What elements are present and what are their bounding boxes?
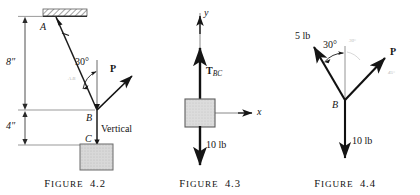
faint-angle-arc xyxy=(347,52,360,60)
tension-subscript: BC xyxy=(213,69,222,78)
figure-4-4: 5 lb 30° 30° 45° P B 10 lb FIGURE 4.4 xyxy=(270,0,420,195)
force-p-arrow xyxy=(97,76,132,110)
figure-4-3: y x TBC 10 lb FIGURE 4.3 xyxy=(150,0,270,195)
free-body-block xyxy=(185,99,215,127)
figure-4-3-caption: FIGURE 4.3 xyxy=(150,178,270,189)
caption-word: IGURE xyxy=(321,179,354,189)
label-point-c: C xyxy=(85,134,92,144)
label-vertical: Vertical xyxy=(101,124,132,134)
label-angle-30: 30° xyxy=(323,40,337,50)
caption-word: IGURE xyxy=(51,179,84,189)
label-faint-angle-artifact: 30° xyxy=(349,38,356,43)
label-point-b: B xyxy=(332,100,338,110)
label-dim-8in: 8″ xyxy=(6,57,15,67)
figure-4-2: A 30° A.B P B Vertical C 8″ 4″ FIGURE 4.… xyxy=(0,0,150,195)
label-axis-y: y xyxy=(204,8,208,18)
label-point-b: B xyxy=(86,113,92,123)
label-force-p: P xyxy=(390,47,396,57)
figure-4-4-drawing xyxy=(270,0,420,175)
caption-prefix-f: F xyxy=(44,178,51,189)
label-angle-30: 30° xyxy=(75,57,89,67)
ceiling-support-hatch xyxy=(43,9,87,16)
hanging-block xyxy=(80,144,113,170)
label-force-p: P xyxy=(110,64,116,74)
figure-4-4-caption: FIGURE 4.4 xyxy=(270,178,420,189)
figure-4-2-drawing xyxy=(0,0,150,175)
caption-number: 4.3 xyxy=(225,178,241,189)
label-point-a: A xyxy=(40,22,46,32)
figure-4-2-caption: FIGURE 4.2 xyxy=(0,178,150,189)
angle-arc-30 xyxy=(83,72,96,90)
label-weight-10lb: 10 lb xyxy=(352,136,372,146)
label-tension-tbc: TBC xyxy=(206,66,222,77)
caption-word: IGURE xyxy=(186,179,219,189)
label-axis-x: x xyxy=(257,107,261,117)
tension-symbol: T xyxy=(206,65,213,76)
caption-number: 4.2 xyxy=(90,178,106,189)
label-faint-angle-artifact-right: 45° xyxy=(388,70,395,75)
label-weight-10lb: 10 lb xyxy=(206,140,226,150)
caption-number: 4.4 xyxy=(360,178,376,189)
caption-prefix-f: F xyxy=(179,178,186,189)
cable-ab-arrowhead xyxy=(56,17,63,25)
dim-arrow-lower-bottom xyxy=(22,139,27,145)
label-dim-4in: 4″ xyxy=(6,121,15,131)
dim-arrow-upper-top xyxy=(22,17,27,23)
label-force-5lb: 5 lb xyxy=(295,31,310,41)
label-smudge-artifact: A.B xyxy=(68,76,75,81)
dim-arrow-upper-bottom xyxy=(22,104,27,110)
dim-arrow-lower-top xyxy=(22,111,27,117)
force-arrow-p xyxy=(345,58,385,100)
caption-prefix-f: F xyxy=(314,178,321,189)
force-arrow-5lb xyxy=(314,47,345,100)
figure-sheet: A 30° A.B P B Vertical C 8″ 4″ FIGURE 4.… xyxy=(0,0,420,195)
